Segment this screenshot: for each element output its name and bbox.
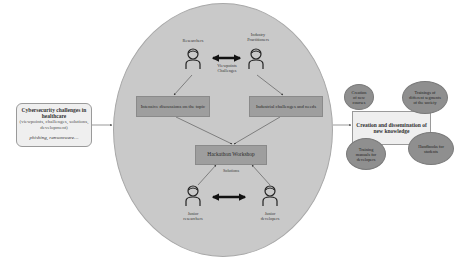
outcome-new-courses: Creation of new courses bbox=[344, 84, 374, 110]
actor-label-junior-researchers: Junior researchers bbox=[178, 211, 208, 221]
box-intensive-discussions: Intensive discussions on the topic bbox=[136, 96, 210, 117]
actor-label-junior-developers: Junior developers bbox=[255, 211, 285, 221]
outcome-training-manuals: Training manuals for developers bbox=[346, 138, 386, 170]
person-icon-industry-practitioners bbox=[246, 47, 266, 71]
input-topic-box: Cybersecurity challenges in healthcare (… bbox=[16, 103, 92, 147]
person-icon-junior-researchers bbox=[183, 184, 203, 208]
outcome-trainings-society: Trainings of different segments of the s… bbox=[402, 81, 448, 114]
person-icon-researchers bbox=[183, 47, 203, 71]
person-icon-junior-developers bbox=[260, 184, 280, 208]
box-industrial-challenges: Industrial challenges and needs bbox=[249, 96, 323, 117]
actor-label-industry-practitioners: Industry Practitioners bbox=[243, 32, 273, 42]
hub-label-solutions: Solutions bbox=[215, 168, 247, 173]
input-subtitle: (viewpoints, challenges, solutions, deve… bbox=[19, 119, 89, 131]
input-title: Cybersecurity challenges in healthcare bbox=[19, 107, 89, 119]
actor-label-researchers: Researchers bbox=[178, 38, 208, 43]
input-examples: phishing, ransomware… bbox=[19, 135, 89, 141]
outcome-handbooks-students: Handbooks for students bbox=[408, 132, 454, 165]
box-hackathon-workshop: Hackathon Workshop bbox=[195, 145, 267, 165]
exchange-label-viewpoints-challenges: Viewpoints Challenges bbox=[211, 63, 243, 73]
